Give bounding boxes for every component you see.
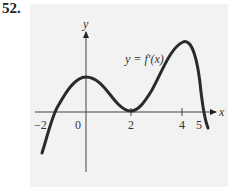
y-axis-label: y [82, 17, 89, 31]
x-tick-label-4: 4 [179, 118, 185, 132]
curve-label: y = f′(x) [124, 52, 164, 66]
x-tick-label-neg2: −2 [34, 118, 47, 132]
derivative-graph: y x −2 0 2 4 5 y = f′(x) [0, 0, 228, 187]
x-tick-label-0: 0 [75, 118, 81, 132]
x-tick-label-2: 2 [128, 118, 134, 132]
x-axis-label: x [218, 105, 225, 119]
x-tick-label-5: 5 [196, 118, 202, 132]
